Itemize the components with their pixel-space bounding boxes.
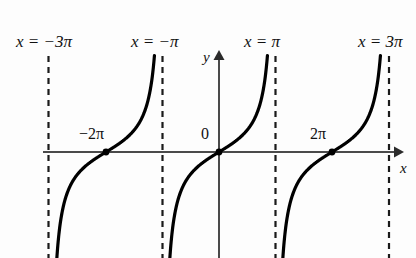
y-axis-label: y	[203, 50, 210, 65]
x-axis-label: x	[400, 161, 407, 176]
tangent-graph-figure: x = −3π x = −π x = π x = 3π y x −2π 0 2π	[0, 0, 416, 258]
point-marker-zero	[216, 149, 223, 156]
tangent-branch-2	[283, 56, 381, 258]
axes-group	[43, 50, 404, 258]
point-marker-neg-2pi	[103, 149, 110, 156]
tick-label-pos-2pi: 2π	[310, 126, 326, 142]
asymptote-label-neg-pi: x = −π	[131, 33, 179, 50]
asymptote-label-pos-3pi: x = 3π	[358, 33, 403, 50]
asymptote-label-pos-pi: x = π	[244, 33, 280, 50]
tick-label-neg-2pi: −2π	[79, 126, 104, 142]
x-axis-arrowhead	[394, 147, 404, 158]
tangent-branch-0	[57, 56, 155, 258]
y-axis-arrowhead	[214, 50, 225, 60]
tick-label-zero: 0	[201, 126, 209, 142]
asymptote-label-neg-3pi: x = −3π	[16, 33, 72, 50]
point-marker-pos-2pi	[329, 149, 336, 156]
